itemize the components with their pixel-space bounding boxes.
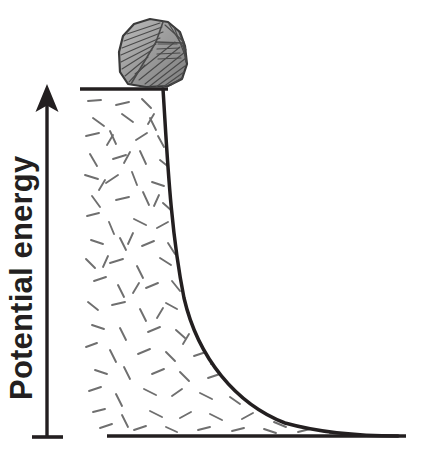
y-axis-label: Potential energy — [4, 155, 39, 400]
figure-canvas: Potential energy — [0, 0, 423, 465]
dashed-stipple-texture — [85, 99, 341, 433]
boulder-rock — [119, 19, 187, 87]
potential-energy-figure: Potential energy — [0, 0, 423, 465]
potential-energy-curve — [163, 89, 398, 436]
